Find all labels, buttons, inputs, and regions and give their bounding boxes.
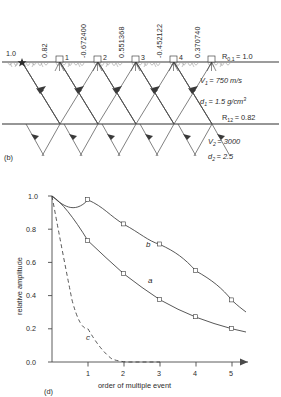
y-tick-label-4: 0.8	[26, 225, 36, 234]
y-tick-label-0: 0.0	[26, 358, 36, 367]
x-tick-label-3: 3	[157, 369, 161, 378]
panel-d-chart: 0.0 0.2 0.4 0.6 0.8 1.0 1 2 3 4 5 relati…	[15, 192, 248, 396]
y-tick-label-3: 0.6	[26, 258, 36, 267]
geophone-number-2: 2	[103, 54, 107, 61]
reflection-coeff-12: R12= 0.82	[222, 113, 255, 123]
ray-arrowheads	[36, 86, 198, 94]
y-axis-ticks	[48, 196, 52, 362]
curve-b	[52, 196, 246, 312]
y-axis-tick-labels: 0.0 0.2 0.4 0.6 0.8 1.0	[26, 192, 38, 367]
y-axis-title: relative amplitude	[15, 257, 24, 315]
amplitude-label-3: -0.452122	[155, 24, 164, 58]
density-layer-1: d1= 1.5 g/cm3	[200, 96, 246, 106]
amplitude-label-0: 0.82	[40, 43, 49, 58]
velocity-layer-2: V2= 3000	[208, 137, 241, 147]
curve-label-c: c	[86, 333, 90, 342]
transmitted-rays	[26, 124, 230, 156]
curve-label-b: b	[146, 240, 151, 249]
transmitted-ray-arrowheads	[31, 134, 225, 140]
panel-d-caption: (d)	[44, 387, 53, 396]
amplitude-label-1: -0.672400	[79, 24, 88, 58]
x-axis-tick-labels: 1 2 3 4 5	[86, 369, 233, 378]
geophone-number-1: 1	[65, 54, 69, 61]
amplitude-label-4: 0.370740	[193, 26, 202, 58]
curve-label-a: a	[148, 276, 153, 285]
y-tick-label-1: 0.2	[26, 324, 36, 333]
x-tick-label-4: 4	[193, 369, 197, 378]
x-tick-label-2: 2	[121, 369, 125, 378]
geophone-number-4: 4	[179, 54, 183, 61]
velocity-layer-1: V1= 750 m/s	[200, 76, 242, 86]
density-layer-2: d2= 2.5	[208, 152, 234, 162]
curve-c	[52, 196, 160, 362]
ground-hatching	[8, 63, 230, 67]
panel-b-caption: (b)	[4, 153, 13, 162]
figure-seismic-multiples: 0.82 -0.672400 0.551368 -0.452122 0.3707…	[0, 0, 281, 397]
source-amplitude-label: 1.0	[6, 49, 16, 58]
x-axis-ticks	[88, 362, 232, 367]
geophone-number-3: 3	[141, 54, 145, 61]
curve-a-markers	[86, 238, 234, 330]
x-tick-label-5: 5	[229, 369, 233, 378]
panel-b-raypath-diagram: 0.82 -0.672400 0.551368 -0.452122 0.3707…	[2, 24, 279, 162]
curve-a	[52, 196, 246, 332]
reflection-coeff-01: R0,1= 1.0	[222, 52, 253, 62]
surface-amplitude-labels: 0.82 -0.672400 0.551368 -0.452122 0.3707…	[40, 24, 202, 58]
x-tick-label-1: 1	[86, 369, 90, 378]
x-axis-arrowhead	[240, 359, 248, 366]
amplitude-label-2: 0.551368	[117, 26, 126, 58]
y-tick-label-2: 0.4	[26, 291, 36, 300]
x-axis-title: order of multiple event	[98, 381, 171, 390]
y-tick-label-5: 1.0	[28, 192, 38, 201]
curve-b-markers	[86, 197, 234, 302]
